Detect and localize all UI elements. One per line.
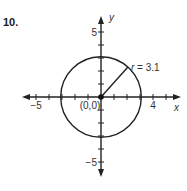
center-label: (0,0) xyxy=(80,100,101,111)
x-tick-label-4: 4 xyxy=(150,100,156,111)
y-tick-label-5: 5 xyxy=(91,27,97,38)
y-tick-label-neg5: −5 xyxy=(86,157,98,168)
radius-segment xyxy=(101,67,128,97)
coordinate-plane-figure: 10. x y −5 4 5 −5 (0,0) r = 3.1 xyxy=(0,0,187,191)
y-axis-arrow-up xyxy=(98,16,104,24)
problem-number: 10. xyxy=(3,16,18,28)
y-axis-arrow-down xyxy=(98,169,104,177)
x-axis-arrow-left xyxy=(22,94,30,100)
x-axis-arrow-right xyxy=(173,94,181,100)
x-axis-label: x xyxy=(173,102,180,113)
y-axis-label: y xyxy=(108,12,115,23)
center-point xyxy=(98,94,104,100)
x-tick-label-neg5: −5 xyxy=(30,100,42,111)
radius-label-value: = 3.1 xyxy=(134,62,160,73)
radius-label: r = 3.1 xyxy=(131,62,160,73)
